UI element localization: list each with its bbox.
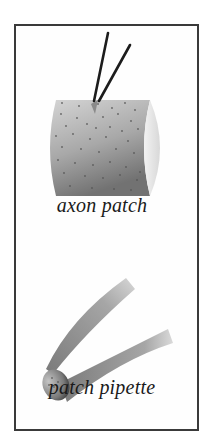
axon-cylinder <box>50 100 160 196</box>
caption-axon-patch: axon patch <box>0 194 204 217</box>
pipette-on-axon <box>94 33 130 101</box>
caption-patch-pipette: patch pipette <box>0 376 204 399</box>
